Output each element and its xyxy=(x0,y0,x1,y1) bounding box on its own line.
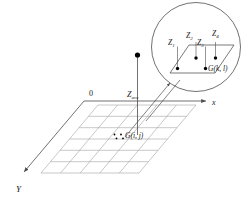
cell-corner-dot xyxy=(120,134,122,136)
axis-x: x xyxy=(84,98,216,107)
inset-point-z4 xyxy=(214,56,217,59)
y-axis-line xyxy=(24,101,84,172)
cell-corner-dot xyxy=(114,134,116,136)
grid-rows xyxy=(41,105,196,173)
diagram-canvas: x Y 0 Zave G(i, j) xyxy=(0,0,249,199)
inset-point-z3 xyxy=(204,67,207,70)
x-axis-label: x xyxy=(211,98,216,107)
origin-label: 0 xyxy=(89,89,93,98)
inset-point-z2 xyxy=(194,56,197,59)
grid-cell-label: G(i, j) xyxy=(125,131,144,140)
cell-corner-dot xyxy=(116,138,118,140)
inset-cell-label: G(k, l) xyxy=(208,64,228,73)
z-average-indicator: Zave xyxy=(127,52,140,135)
callout-line-lower xyxy=(125,83,170,137)
inset-point-z1 xyxy=(176,67,179,70)
ground-grid xyxy=(41,105,196,173)
cell-corner-dot xyxy=(122,138,124,140)
y-axis-label: Y xyxy=(16,184,22,194)
callout-leaders xyxy=(125,80,180,137)
magnifier-inset: Z1 Z2 Z3 Z4 G(k, l) xyxy=(152,3,241,92)
axis-y: Y xyxy=(16,101,84,194)
figure-container: x Y 0 Zave G(i, j) xyxy=(0,0,249,199)
z-average-point xyxy=(135,52,140,57)
